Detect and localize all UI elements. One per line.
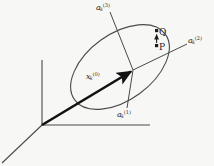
global-depth-axis bbox=[2, 125, 42, 163]
local-axis-1-line bbox=[127, 70, 133, 108]
local-axis-3-line bbox=[110, 12, 133, 70]
axis-1-sup: (1) bbox=[124, 109, 131, 115]
axis-3-sup: (3) bbox=[103, 2, 110, 8]
pq-point-group bbox=[155, 29, 158, 47]
point-q-marker bbox=[155, 29, 158, 32]
state-vector-sup: (0) bbox=[93, 71, 100, 77]
local-axes-frame bbox=[110, 12, 187, 108]
state-vector-label: xk(0) bbox=[86, 72, 100, 81]
point-p-marker bbox=[155, 44, 158, 47]
diagram-canvas bbox=[0, 0, 214, 166]
axis-3-label: ak(3) bbox=[96, 3, 110, 12]
vector-diagram-figure: ak(3) ak(2) ak(1) xk(0) Q P bbox=[0, 0, 214, 166]
axis-2-sup: (2) bbox=[195, 35, 202, 41]
point-p-label: P bbox=[159, 43, 165, 52]
axis-2-label: ak(2) bbox=[188, 36, 202, 45]
point-q-label: Q bbox=[159, 28, 166, 37]
axis-1-label: ak(1) bbox=[117, 110, 131, 119]
